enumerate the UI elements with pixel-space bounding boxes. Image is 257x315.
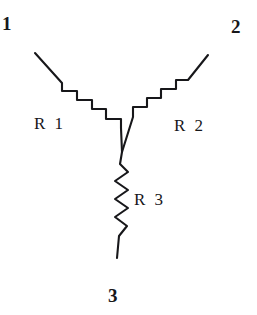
resistor-label-r3: R 3 [134,191,165,208]
terminal-label-1: 1 [2,14,12,33]
branch-r1-wire [35,53,122,152]
terminal-label-2: 2 [231,17,241,36]
resistor-label-r2: R 2 [174,117,205,134]
schematic-figure: 1 2 3 R 1 R 2 R 3 [0,0,257,315]
terminal-label-3: 3 [108,286,118,305]
branch-r2-wire [122,55,208,152]
resistor-label-r1: R 1 [34,115,65,132]
branch-r3-wire [115,152,128,258]
schematic-drawing [0,0,257,315]
